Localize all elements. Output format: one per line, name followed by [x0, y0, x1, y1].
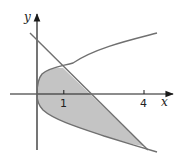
y-axis-label: y	[23, 10, 31, 24]
x-axis-label: x	[161, 95, 168, 109]
shaded-region	[37, 68, 144, 146]
x-tick-label-1: 1	[60, 97, 67, 110]
x-tick-label-4: 4	[140, 97, 147, 110]
region-diagram: y x 1 4	[0, 0, 184, 164]
